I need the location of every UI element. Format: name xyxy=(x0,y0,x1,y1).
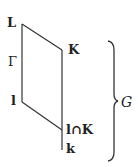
edge-l-intersection xyxy=(22,102,62,130)
node-K: K xyxy=(68,43,79,56)
brace-icon xyxy=(108,41,118,161)
brace-label-G: G xyxy=(121,95,132,109)
edge-L-K xyxy=(22,24,62,50)
node-L: L xyxy=(7,16,16,29)
node-intersection: l∩K xyxy=(66,123,93,136)
node-k: k xyxy=(66,142,75,155)
node-l: l xyxy=(11,94,16,107)
node-gamma: Γ xyxy=(8,55,17,68)
